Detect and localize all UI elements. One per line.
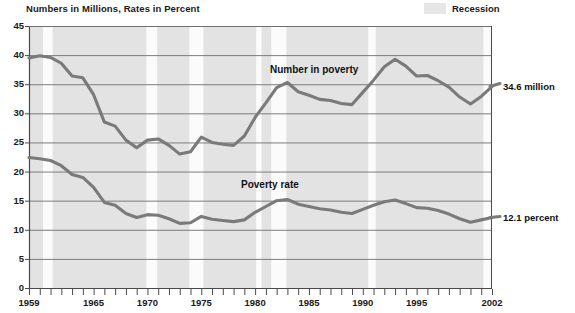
y-axis-tick-label: 10 <box>2 224 24 235</box>
x-axis-tick-label: 1965 <box>83 297 104 308</box>
y-axis-tick-label: 45 <box>2 20 24 31</box>
recession-band <box>483 26 491 288</box>
x-axis-tick-label: 1959 <box>18 297 39 308</box>
y-axis-tick-label: 0 <box>2 282 24 293</box>
x-axis-tick-label: 1990 <box>352 297 373 308</box>
number-endpoint-label: 34.6 million <box>503 81 555 92</box>
endpoint-leader <box>490 217 500 218</box>
y-axis-tick-label: 35 <box>2 78 24 89</box>
x-axis-tick-label: 1985 <box>298 297 319 308</box>
rate-endpoint-label: 12.1 percent <box>503 212 558 223</box>
plot-area <box>0 0 575 313</box>
y-axis-tick-label: 25 <box>2 136 24 147</box>
x-axis-tick-label: 2002 <box>481 297 502 308</box>
y-axis-tick-label: 15 <box>2 195 24 206</box>
x-axis-tick-label: 1980 <box>245 297 266 308</box>
y-axis-tick-label: 30 <box>2 107 24 118</box>
y-axis-tick-label: 40 <box>2 49 24 60</box>
recession-band <box>189 26 203 288</box>
poverty-rate-series-label: Poverty rate <box>241 179 299 190</box>
recession-band <box>368 26 376 288</box>
x-axis-tick-label: 1970 <box>137 297 158 308</box>
recession-band <box>43 26 53 288</box>
x-axis-tick-label: 1975 <box>191 297 212 308</box>
recession-band <box>146 26 157 288</box>
x-axis-tick-label: 1995 <box>406 297 427 308</box>
recession-band <box>256 26 261 288</box>
y-axis-tick-label: 5 <box>2 253 24 264</box>
poverty-chart: Numbers in Millions, Rates in Percent Re… <box>0 0 575 313</box>
y-axis-tick-label: 20 <box>2 166 24 177</box>
number-in-poverty-series-label: Number in poverty <box>270 64 358 75</box>
x-axis-ticks <box>30 289 493 295</box>
